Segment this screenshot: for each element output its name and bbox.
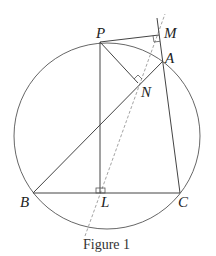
label-B: B	[20, 194, 29, 210]
figure-caption: Figure 1	[83, 237, 130, 252]
right-angle-N	[134, 75, 142, 79]
label-C: C	[178, 194, 189, 210]
label-A: A	[164, 50, 175, 66]
segment-BA	[33, 61, 163, 193]
segment-PN	[100, 42, 138, 83]
label-L: L	[100, 194, 109, 210]
label-N: N	[140, 84, 152, 100]
line-CM	[157, 18, 180, 193]
label-P: P	[95, 25, 105, 41]
label-M: M	[163, 25, 178, 41]
geometry-diagram: P M A N B L C Figure 1	[0, 0, 216, 256]
segment-PM	[100, 35, 159, 42]
simson-line-dashed	[85, 14, 165, 236]
